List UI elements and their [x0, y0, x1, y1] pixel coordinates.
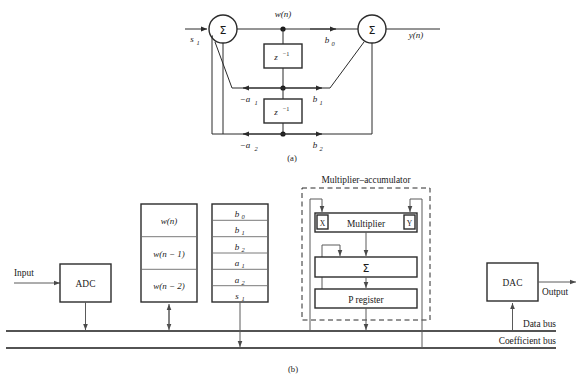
coefficient-register-cell-1-sub: 1 — [241, 229, 244, 236]
coef-b0-label: b — [325, 35, 330, 45]
coef-a2-label: −a — [240, 140, 251, 150]
output-label: Output — [542, 287, 568, 297]
mac-adder-sigma: Σ — [363, 262, 370, 275]
delay-1-exp-label: −1 — [283, 50, 290, 57]
coef-a2-sub: 2 — [254, 145, 258, 152]
caption-a: (a) — [287, 153, 297, 163]
multiplier-label: Multiplier — [347, 219, 386, 229]
data-register-cell-0: w(n) — [161, 216, 178, 226]
coef-a1-label: −a — [240, 94, 251, 104]
coefficient-register-cell-0-base: b — [235, 209, 240, 219]
figure-svg: Σ Σ z −1 z −1 s 1 y(n) w(n) b 0 −a 1 b 1 — [0, 0, 587, 384]
data-bus-label: Data bus — [523, 319, 556, 329]
coef-b1-label: b — [313, 94, 318, 104]
coefficient-register-cell-1-base: b — [235, 225, 240, 235]
coef-b2-label: b — [313, 140, 318, 150]
output-signal-label: y(n) — [408, 30, 424, 40]
multiplier-port-y-label: Y — [407, 219, 413, 228]
diagram-b-group: Data bus Coefficient bus Input ADC w(n) … — [6, 175, 576, 374]
data-register-cell-2: w(n − 2) — [153, 281, 185, 291]
output-summer-sigma: Σ — [369, 24, 376, 37]
delay-2-exp-label: −1 — [283, 105, 290, 112]
input-label: Input — [14, 268, 34, 278]
multiplier-port-x-label: X — [320, 219, 326, 228]
coefficient-register-cell-3-base: a — [235, 258, 240, 268]
caption-b: (b) — [288, 364, 298, 374]
figure-root: Σ Σ z −1 z −1 s 1 y(n) w(n) b 0 −a 1 b 1 — [0, 0, 587, 384]
coef-b0-sub: 0 — [331, 40, 335, 47]
coefficient-register-cell-5-base: s — [235, 291, 239, 301]
coefficient-bus-label: Coefficient bus — [499, 336, 557, 346]
dac-label: DAC — [503, 278, 523, 288]
coefficient-register-cell-2-base: b — [235, 242, 240, 252]
delay-2-base-label: z — [273, 107, 278, 117]
coefficient-register-cell-5-sub: 1 — [241, 295, 244, 302]
adc-label: ADC — [76, 279, 96, 289]
coef-b1-sub: 1 — [319, 99, 322, 106]
input-signal-sub: 1 — [196, 39, 199, 46]
coefficient-register-cell-4-base: a — [235, 275, 240, 285]
coef-b2-sub: 2 — [319, 145, 323, 152]
input-summer-sigma: Σ — [220, 24, 227, 37]
diagram-a-group: Σ Σ z −1 z −1 s 1 y(n) w(n) b 0 −a 1 b 1 — [185, 9, 440, 163]
delay-1-base-label: z — [273, 52, 278, 62]
data-register-cell-1: w(n − 1) — [153, 249, 185, 259]
coefficient-register-cell-3-sub: 1 — [241, 262, 244, 269]
coef-a1-sub: 1 — [254, 99, 257, 106]
b1-to-output-summer-diagonal — [330, 42, 364, 88]
mac-title-label: Multiplier–accumulator — [321, 175, 411, 185]
input-signal-label: s — [190, 34, 194, 44]
p-register-label: P register — [348, 295, 384, 305]
wn-node-label: w(n) — [275, 9, 292, 19]
